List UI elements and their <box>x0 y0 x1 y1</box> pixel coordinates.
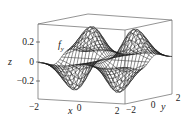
x-tick-label: 0 <box>77 103 82 113</box>
y-tick-label: −2 <box>126 105 136 115</box>
x-axis-label: x <box>67 105 73 116</box>
z-tick-label: 0 <box>29 57 34 67</box>
x-tick-label: 2 <box>115 106 120 116</box>
y-axis-label: y <box>160 101 166 112</box>
plot-box-front <box>38 24 172 104</box>
z-axis-label: z <box>7 56 12 67</box>
surface-mesh <box>38 27 172 93</box>
function-annotation: fy <box>58 39 65 53</box>
y-tick-label: 0 <box>151 100 156 110</box>
y-tick-label: 2 <box>176 93 181 103</box>
z-tick-label: 0.2 <box>22 37 34 47</box>
surface-plot: 0.2 0 −0.2 z −2 0 2 x −2 0 2 y fy <box>0 0 187 122</box>
z-tick-label: −0.2 <box>17 76 34 86</box>
x-tick-label: −2 <box>29 102 39 112</box>
